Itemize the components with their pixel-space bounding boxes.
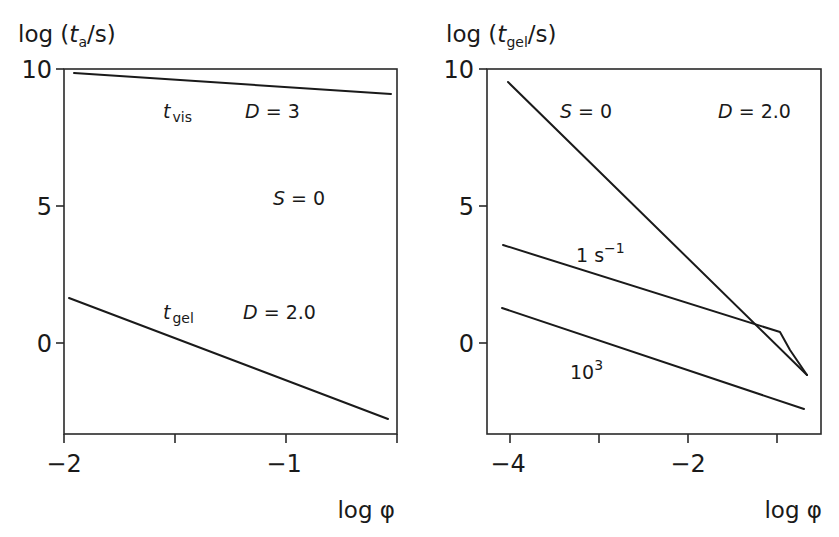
right-y-axis-title: log (tgel/s) xyxy=(446,21,557,50)
label-rate-1: 1 s−1 xyxy=(576,240,625,266)
series-rate-1 xyxy=(503,245,807,375)
label-s-0-left: S = 0 xyxy=(273,187,325,209)
left-plot-frame xyxy=(64,69,397,434)
label-s-0-right: S = 0 xyxy=(560,100,612,122)
label-t-gel: tgel xyxy=(163,301,194,326)
left-y-axis-title: log (ta/s) xyxy=(18,21,116,50)
left-xtick-label-m2: −2 xyxy=(46,450,81,478)
right-ytick-label-0: 0 xyxy=(459,330,474,358)
series-t-vis xyxy=(74,73,391,94)
label-d-3: D = 3 xyxy=(245,100,300,122)
series-rate-1e3 xyxy=(502,308,804,409)
left-ytick-label-5: 5 xyxy=(37,193,52,221)
right-xtick-label-m4: −4 xyxy=(490,450,525,478)
right-xtick-label-m2: −2 xyxy=(670,450,705,478)
label-d-2-right: D = 2.0 xyxy=(718,100,791,122)
right-x-axis-title: log φ xyxy=(764,497,822,523)
left-panel: log (ta/s) 10 5 0 −2 −1 log φ tvis D = 3… xyxy=(18,21,397,523)
left-xtick-label-m1: −1 xyxy=(266,450,301,478)
label-t-vis: tvis xyxy=(163,100,192,125)
label-d-2-left: D = 2.0 xyxy=(243,301,316,323)
left-ytick-label-10: 10 xyxy=(21,56,52,84)
right-plot-frame xyxy=(487,69,821,434)
right-panel: log (tgel/s) 10 5 0 −4 −2 log φ S = 0 D … xyxy=(443,21,822,523)
right-ytick-label-10: 10 xyxy=(443,56,474,84)
left-x-axis-title: log φ xyxy=(337,497,395,523)
figure-canvas: log (ta/s) 10 5 0 −2 −1 log φ tvis D = 3… xyxy=(0,0,839,537)
series-s-0 xyxy=(508,82,807,375)
right-ytick-label-5: 5 xyxy=(459,193,474,221)
left-ytick-label-0: 0 xyxy=(37,330,52,358)
series-t-gel xyxy=(69,298,388,419)
label-rate-1e3: 103 xyxy=(570,357,603,383)
